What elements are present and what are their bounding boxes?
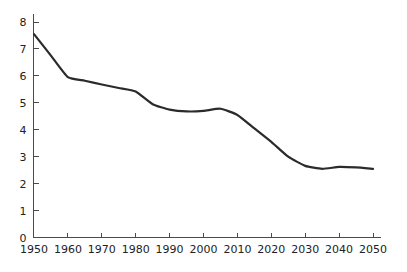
chart-canvas: 012345678 195019601970198019902000201020… <box>0 0 407 272</box>
data-series-group <box>34 34 373 169</box>
x-tick-label: 1960 <box>54 243 82 256</box>
y-tick-label: 5 <box>20 97 27 110</box>
x-tick-label: 2010 <box>223 243 251 256</box>
x-tick-label: 2050 <box>359 243 387 256</box>
x-tick-label: 2000 <box>190 243 218 256</box>
y-tick-label: 6 <box>20 70 27 83</box>
x-tick-label: 1990 <box>156 243 184 256</box>
y-tick-label: 8 <box>20 16 27 29</box>
x-tick-label: 1970 <box>88 243 116 256</box>
y-tick-label: 7 <box>20 43 27 56</box>
y-tick-label: 1 <box>20 205 27 218</box>
y-tick-label: 3 <box>20 151 27 164</box>
x-tick-label: 2030 <box>291 243 319 256</box>
x-axis: 1950196019701980199020002010202020302040… <box>20 233 387 256</box>
x-tick-label: 1950 <box>20 243 48 256</box>
x-tick-label: 2020 <box>257 243 285 256</box>
y-tick-label: 4 <box>20 124 27 137</box>
y-axis: 012345678 <box>20 14 39 245</box>
y-tick-label: 2 <box>20 178 27 191</box>
data-line <box>34 34 373 169</box>
x-tick-label: 2040 <box>325 243 353 256</box>
x-tick-label: 1980 <box>122 243 150 256</box>
line-chart: 012345678 195019601970198019902000201020… <box>0 0 407 272</box>
